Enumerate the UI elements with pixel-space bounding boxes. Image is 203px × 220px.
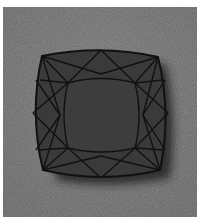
gemstone-illustration — [3, 7, 197, 217]
gem-table — [64, 79, 139, 153]
photo-frame — [3, 7, 197, 217]
